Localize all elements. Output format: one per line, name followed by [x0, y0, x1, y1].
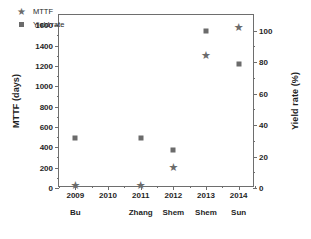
y-axis-right-minor-tick [253, 109, 255, 110]
y-axis-right-minor-tick [253, 141, 255, 142]
y-axis-left-tick-label: 600 [40, 122, 53, 131]
y-axis-right-tick [253, 62, 257, 63]
y-axis-right-tick-label: 100 [259, 26, 272, 35]
plot-area: 02004006008001000120014001600 0204060801… [58, 14, 254, 187]
y-axis-right-minor-tick [253, 78, 255, 79]
x-axis-tick-label: 2009 [66, 191, 84, 200]
y-axis-left-tick-label: 1200 [35, 61, 53, 70]
x-axis-tick [206, 186, 207, 190]
y-axis-right-minor-tick [253, 172, 255, 173]
y-axis-left-tick-label: 400 [40, 143, 53, 152]
data-point-yield-rate [73, 135, 78, 140]
x-axis-minor-tick [222, 186, 223, 188]
y-axis-left-tick [55, 66, 59, 67]
y-axis-right-tick-label: 80 [259, 58, 268, 67]
y-axis-right-tick [253, 94, 257, 95]
y-axis-left-tick-label: 200 [40, 163, 53, 172]
y-axis-right-tick-label: 60 [259, 89, 268, 98]
y-axis-left-title: MTTF (days) [11, 74, 21, 128]
y-axis-right-tick-label: 0 [259, 184, 263, 193]
x-axis-minor-tick [255, 186, 256, 188]
y-axis-left-tick-label: 1400 [35, 41, 53, 50]
y-axis-left-tick [55, 86, 59, 87]
y-axis-right-tick [253, 31, 257, 32]
y-axis-left-tick [55, 188, 59, 189]
y-axis-left-minor-tick [57, 56, 59, 57]
data-point-yield-rate [138, 135, 143, 140]
y-axis-right-title: Yield rate (%) [290, 72, 300, 130]
data-point-mttf: ★ [201, 50, 211, 61]
x-axis-author-label: Bu [70, 208, 81, 217]
y-axis-left-tick [55, 46, 59, 47]
legend-item-label: MTTF [33, 7, 53, 16]
chart-legend: ★MTTFYield rate [16, 6, 64, 32]
y-axis-left-minor-tick [57, 157, 59, 158]
data-point-mttf: ★ [234, 22, 244, 33]
y-axis-left-tick [55, 107, 59, 108]
data-point-yield-rate [236, 61, 241, 66]
y-axis-left-minor-tick [57, 137, 59, 138]
data-point-yield-rate [171, 148, 176, 153]
y-axis-left-minor-tick [57, 96, 59, 97]
y-axis-right-tick [253, 157, 257, 158]
x-axis-tick [173, 186, 174, 190]
x-axis-tick-label: 2013 [197, 191, 215, 200]
y-axis-right-minor-tick [253, 46, 255, 47]
y-axis-left-tick-label: 0 [49, 184, 53, 193]
legend-item-label: Yield rate [33, 20, 64, 29]
square-icon [16, 22, 27, 27]
legend-item: Yield rate [16, 19, 64, 30]
x-axis-tick-label: 2011 [132, 191, 149, 200]
x-axis-tick [108, 186, 109, 190]
data-point-mttf: ★ [168, 162, 178, 173]
y-axis-left-tick-label: 1000 [35, 82, 53, 91]
x-axis-tick-label: 2010 [99, 191, 117, 200]
y-axis-left-tick [55, 127, 59, 128]
x-axis-author-label: Zhang [129, 208, 153, 217]
x-axis-minor-tick [124, 186, 125, 188]
x-axis-minor-tick [59, 186, 60, 188]
y-axis-right-tick [253, 125, 257, 126]
x-axis-minor-tick [190, 186, 191, 188]
legend-item: ★MTTF [16, 6, 64, 17]
x-axis-tick [239, 186, 240, 190]
y-axis-right-tick [253, 188, 257, 189]
y-axis-left-tick-label: 800 [40, 102, 53, 111]
data-point-yield-rate [204, 28, 209, 33]
chart-figure: MTTF (days) Yield rate (%) 0200400600800… [0, 0, 311, 239]
y-axis-left-tick [55, 168, 59, 169]
data-point-mttf: ★ [136, 180, 146, 191]
x-axis-minor-tick [157, 186, 158, 188]
y-axis-left-minor-tick [57, 117, 59, 118]
data-point-mttf: ★ [70, 180, 80, 191]
y-axis-left-tick [55, 147, 59, 148]
y-axis-right-tick-label: 40 [259, 121, 268, 130]
x-axis-tick-label: 2014 [230, 191, 248, 200]
y-axis-left-minor-tick [57, 35, 59, 36]
x-axis-tick-label: 2012 [164, 191, 182, 200]
x-axis-author-label: Sun [231, 208, 246, 217]
star-icon: ★ [16, 7, 27, 17]
y-axis-right-tick-label: 20 [259, 152, 268, 161]
x-axis-author-label: Shem [162, 208, 184, 217]
y-axis-left-minor-tick [57, 178, 59, 179]
x-axis-minor-tick [92, 186, 93, 188]
x-axis-author-label: Shem [195, 208, 217, 217]
y-axis-left-minor-tick [57, 76, 59, 77]
